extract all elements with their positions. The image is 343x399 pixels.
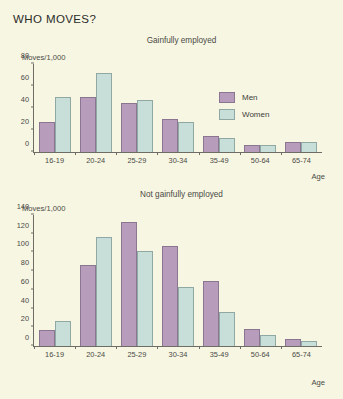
x-axis-tick-mark bbox=[75, 152, 76, 155]
legend-label-men: Men bbox=[242, 93, 258, 102]
bar-group: 16-19 bbox=[34, 215, 75, 346]
legend-item-men: Men bbox=[219, 92, 269, 103]
x-axis-tick-mark bbox=[199, 152, 200, 155]
x-axis-tick-mark bbox=[116, 346, 117, 349]
bar-women[interactable] bbox=[260, 335, 276, 346]
y-axis-tick-mark bbox=[31, 63, 34, 64]
bar-men[interactable] bbox=[39, 330, 55, 346]
x-axis-tick-label: 50-64 bbox=[251, 156, 270, 165]
bar-women[interactable] bbox=[137, 100, 153, 152]
bar-women[interactable] bbox=[301, 341, 317, 346]
bar-women[interactable] bbox=[219, 312, 235, 346]
bar-group: 25-29 bbox=[116, 64, 157, 152]
bar-group-container: 16-1920-2425-2930-3435-4950-6465-74 bbox=[34, 215, 322, 346]
y-axis-tick-mark bbox=[31, 85, 34, 86]
x-axis-label: Age bbox=[311, 172, 325, 181]
bar-men[interactable] bbox=[285, 142, 301, 152]
x-axis-tick-label: 25-29 bbox=[127, 350, 146, 359]
bar-group: 30-34 bbox=[157, 215, 198, 346]
y-axis-tick-label: 100 bbox=[17, 239, 34, 248]
y-axis-tick-label: 40 bbox=[21, 95, 34, 104]
x-axis-tick-mark bbox=[157, 152, 158, 155]
page-title: WHO MOVES? bbox=[13, 13, 96, 25]
y-axis-tick-mark bbox=[31, 307, 34, 308]
bar-women[interactable] bbox=[137, 251, 153, 346]
bar-group: 20-24 bbox=[75, 215, 116, 346]
y-axis-tick-mark bbox=[31, 345, 34, 346]
bar-men[interactable] bbox=[80, 97, 96, 152]
bar-group: 35-49 bbox=[199, 215, 240, 346]
y-axis-tick-label: 120 bbox=[17, 220, 34, 229]
legend-item-women: Women bbox=[219, 109, 269, 120]
y-axis-tick-label: 0 bbox=[25, 139, 34, 148]
y-axis-tick-label: 20 bbox=[21, 314, 34, 323]
x-axis-tick-label: 35-49 bbox=[210, 350, 229, 359]
bar-group-container: 16-1920-2425-2930-3435-4950-6465-74 bbox=[34, 64, 322, 152]
y-axis-tick-label: 0 bbox=[25, 333, 34, 342]
x-axis-tick-label: 35-49 bbox=[210, 156, 229, 165]
bar-women[interactable] bbox=[260, 145, 276, 152]
y-axis-tick-label: 80 bbox=[21, 258, 34, 267]
bar-group: 30-34 bbox=[157, 64, 198, 152]
y-axis-tick-mark bbox=[31, 270, 34, 271]
x-axis-tick-label: 50-64 bbox=[251, 350, 270, 359]
chart-subtitle: Not gainfully employed bbox=[10, 190, 343, 199]
y-axis-tick-mark bbox=[31, 151, 34, 152]
y-axis-tick-label: 80 bbox=[21, 51, 34, 60]
bar-group: 16-19 bbox=[34, 64, 75, 152]
bar-women[interactable] bbox=[96, 237, 112, 346]
bar-women[interactable] bbox=[55, 97, 71, 152]
y-axis-tick-label: 140 bbox=[17, 202, 34, 211]
x-axis-tick-label: 30-34 bbox=[169, 350, 188, 359]
bar-men[interactable] bbox=[80, 265, 96, 346]
bar-men[interactable] bbox=[203, 281, 219, 346]
legend-label-women: Women bbox=[242, 110, 269, 119]
x-axis-tick-label: 16-19 bbox=[45, 350, 64, 359]
chart-subtitle: Gainfully employed bbox=[10, 36, 343, 45]
bar-men[interactable] bbox=[244, 329, 260, 346]
bar-men[interactable] bbox=[162, 119, 178, 152]
bar-men[interactable] bbox=[121, 103, 137, 153]
chart-panel-gainfully-employed: Gainfully employed Moves/1,000 16-1920-2… bbox=[0, 30, 343, 190]
y-axis-tick-mark bbox=[31, 251, 34, 252]
bar-women[interactable] bbox=[55, 321, 71, 346]
bar-women[interactable] bbox=[178, 287, 194, 346]
chart-panel-not-gainfully-employed: Not gainfully employed Moves/1,000 16-19… bbox=[0, 188, 343, 399]
y-axis-tick-mark bbox=[31, 214, 34, 215]
bar-men[interactable] bbox=[203, 136, 219, 153]
x-axis-tick-label: 65-74 bbox=[292, 350, 311, 359]
bar-group: 65-74 bbox=[281, 215, 322, 346]
y-axis-tick-label: 20 bbox=[21, 117, 34, 126]
plot-area-gainfully-employed: 16-1920-2425-2930-3435-4950-6465-74 0204… bbox=[33, 64, 322, 153]
y-axis-tick-label: 60 bbox=[21, 276, 34, 285]
bar-women[interactable] bbox=[219, 138, 235, 152]
bar-men[interactable] bbox=[162, 246, 178, 346]
bar-group: 65-74 bbox=[281, 64, 322, 152]
bar-women[interactable] bbox=[178, 122, 194, 152]
bar-men[interactable] bbox=[39, 122, 55, 152]
x-axis-tick-mark bbox=[240, 346, 241, 349]
bar-women[interactable] bbox=[96, 73, 112, 152]
bar-group: 20-24 bbox=[75, 64, 116, 152]
x-axis-tick-mark bbox=[281, 152, 282, 155]
bar-men[interactable] bbox=[244, 145, 260, 152]
bar-men[interactable] bbox=[121, 222, 137, 346]
legend-swatch-men-icon bbox=[219, 92, 235, 103]
bar-group: 50-64 bbox=[240, 215, 281, 346]
y-axis-tick-mark bbox=[31, 326, 34, 327]
x-axis-label: Age bbox=[311, 378, 325, 387]
x-axis-tick-mark bbox=[75, 346, 76, 349]
x-axis-tick-label: 65-74 bbox=[292, 156, 311, 165]
plot-area-not-gainfully-employed: 16-1920-2425-2930-3435-4950-6465-74 0204… bbox=[33, 215, 322, 347]
x-axis-tick-mark bbox=[281, 346, 282, 349]
y-axis-tick-mark bbox=[31, 129, 34, 130]
y-axis-tick-mark bbox=[31, 107, 34, 108]
x-axis-tick-mark bbox=[157, 346, 158, 349]
y-axis-tick-label: 40 bbox=[21, 295, 34, 304]
legend-swatch-women-icon bbox=[219, 109, 235, 120]
bar-women[interactable] bbox=[301, 142, 317, 152]
bar-men[interactable] bbox=[285, 339, 301, 346]
x-axis-tick-mark bbox=[116, 152, 117, 155]
chart-page: { "title": "WHO MOVES?", "legend": { "me… bbox=[0, 0, 343, 399]
x-axis-tick-label: 30-34 bbox=[169, 156, 188, 165]
